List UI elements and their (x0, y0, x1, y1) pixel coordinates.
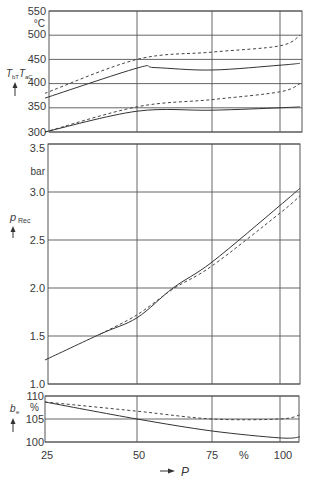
y-tick-300: 300 (28, 126, 46, 138)
right-arrow-icon (160, 469, 175, 474)
up-arrow-icon (11, 418, 16, 432)
temperature-upper-dashed-line (45, 35, 300, 93)
y-tick-550: 550 (28, 5, 46, 17)
x-tick-100: 100 (274, 449, 292, 461)
y-tick-2.0: 2.0 (30, 282, 45, 294)
efficiency-solid-line (45, 402, 300, 438)
pressure-solid-line (45, 188, 300, 360)
label-sub-aC: aC (25, 74, 33, 80)
label-sub-rec: Rec (18, 217, 31, 224)
up-arrow-icon (13, 82, 18, 96)
pressure-dashed-line (100, 196, 300, 334)
x-axis-label: P (181, 465, 189, 479)
temperature-frame (49, 11, 302, 132)
pressure-unit: bar (31, 166, 46, 177)
efficiency-y-label: b e (10, 403, 20, 415)
pressure-y-ticks: 3.5 3.0 2.5 2.0 1.5 1.0 (30, 142, 45, 390)
y-tick-3.5: 3.5 (30, 142, 45, 154)
x-axis-ticks: 25 50 75 % 100 (41, 449, 292, 461)
temperature-upper-solid-line (45, 63, 300, 98)
temperature-panel: 550 500 450 400 350 300 °C T bT T aC (6, 5, 302, 138)
pressure-y-label: p Rec (9, 211, 31, 224)
y-tick-2.5: 2.5 (30, 234, 45, 246)
pressure-grid (48, 144, 300, 384)
y-tick-3.0: 3.0 (30, 186, 45, 198)
temperature-y-label: T bT T aC (6, 68, 33, 80)
up-arrow-icon (11, 226, 16, 238)
pressure-series (45, 188, 300, 360)
efficiency-grid (45, 396, 299, 442)
pressure-panel: 3.5 3.0 2.5 2.0 1.5 1.0 bar p Rec (9, 142, 300, 390)
y-tick-500: 500 (28, 28, 46, 40)
x-tick-75: 75 (206, 449, 218, 461)
label-sub-e: e (16, 409, 20, 415)
y-tick-1.5: 1.5 (30, 330, 45, 342)
y-tick-105: 105 (26, 413, 44, 425)
performance-chart: 550 500 450 400 350 300 °C T bT T aC 3.5… (0, 0, 311, 481)
y-tick-110: 110 (26, 390, 44, 402)
temperature-grid (49, 11, 302, 132)
x-tick-50: 50 (133, 449, 145, 461)
x-unit: % (239, 449, 249, 461)
efficiency-y-ticks: 110 105 100 (26, 390, 44, 448)
label-p: p (9, 211, 16, 223)
efficiency-unit: % (30, 402, 39, 413)
temperature-unit: °C (34, 18, 45, 29)
efficiency-series (45, 402, 300, 438)
y-tick-1.0: 1.0 (30, 378, 45, 390)
efficiency-panel: 110 105 100 % b e (10, 390, 300, 448)
x-tick-25: 25 (41, 449, 53, 461)
temperature-lower-solid-line (45, 107, 300, 132)
y-tick-100: 100 (26, 436, 44, 448)
efficiency-dashed-line (45, 402, 300, 420)
y-tick-450: 450 (28, 53, 46, 65)
y-tick-350: 350 (28, 100, 46, 112)
pressure-frame (48, 144, 300, 384)
